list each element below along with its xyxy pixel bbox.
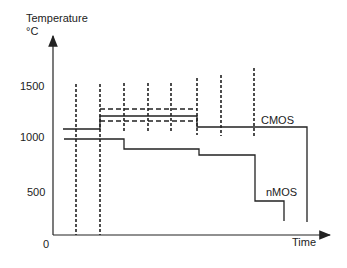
temperature-time-diagram: Temperature °C Time 1500 1000 500 0 CMOS… bbox=[0, 0, 347, 268]
y-tick-1000: 1000 bbox=[20, 131, 44, 143]
nmos-label: nMOS bbox=[266, 186, 297, 198]
dashed-verticals bbox=[76, 68, 254, 235]
y-axis-label: Temperature bbox=[26, 12, 88, 24]
nmos-profile bbox=[64, 139, 284, 221]
y-tick-0: 0 bbox=[43, 238, 49, 250]
x-axis-label: Time bbox=[292, 236, 316, 248]
cmos-label: CMOS bbox=[261, 114, 294, 126]
y-tick-500: 500 bbox=[27, 186, 45, 198]
y-tick-1500: 1500 bbox=[20, 80, 44, 92]
y-axis-unit: °C bbox=[26, 25, 38, 37]
